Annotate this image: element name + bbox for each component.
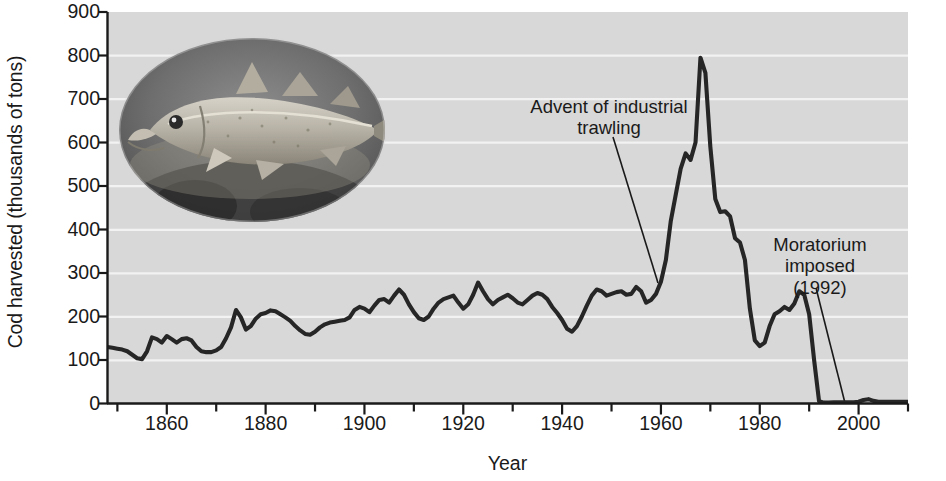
annotation-line-1: Moratorium	[750, 234, 890, 255]
annotation-line-3: (1992)	[750, 277, 890, 298]
annotation-line-2: imposed	[750, 255, 890, 276]
annotation-line-2: trawling	[509, 117, 709, 138]
cod-harvest-figure: Cod harvested (thousands of tons) Year 0…	[0, 0, 946, 481]
x-axis-ticks	[117, 404, 908, 415]
annotation-line-1: Advent of industrial	[509, 96, 709, 117]
annotation-moratorium-imposed: Moratorium imposed (1992)	[750, 234, 890, 298]
y-axis-ticks	[99, 12, 108, 404]
annotation-advent-of-trawling: Advent of industrial trawling	[509, 96, 709, 139]
